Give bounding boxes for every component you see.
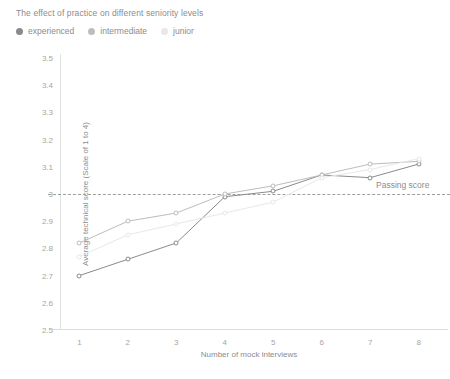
data-point-marker xyxy=(174,240,179,245)
data-point-marker xyxy=(368,162,373,167)
y-axis-tick-label: 3.5 xyxy=(42,54,53,63)
chart-title: The effect of practice on different seni… xyxy=(16,8,203,18)
data-point-marker xyxy=(271,200,276,205)
x-axis-tick-label: 6 xyxy=(319,338,323,347)
y-axis-tick-label: 2.8 xyxy=(42,244,53,253)
plot-area: Average technical score (Scale of 1 to 4… xyxy=(60,58,438,330)
data-point-marker xyxy=(125,219,130,224)
data-point-marker xyxy=(368,167,373,172)
x-axis-tick-label: 5 xyxy=(271,338,275,347)
legend-item-junior[interactable]: junior xyxy=(161,26,194,36)
x-axis-tick-label: 7 xyxy=(368,338,372,347)
legend-marker-icon xyxy=(161,28,168,35)
data-point-marker xyxy=(125,257,130,262)
legend-item-experienced[interactable]: experienced xyxy=(16,26,74,36)
legend-item-label: experienced xyxy=(28,26,74,36)
data-point-marker xyxy=(222,211,227,216)
x-axis-tick-label: 1 xyxy=(77,338,81,347)
y-axis-tick-label: 3.4 xyxy=(42,81,53,90)
y-axis-tick-label: 2.5 xyxy=(42,326,53,335)
data-point-marker xyxy=(271,183,276,188)
data-point-marker xyxy=(77,240,82,245)
data-point-marker xyxy=(125,232,130,237)
data-point-marker xyxy=(174,211,179,216)
series-line-junior xyxy=(79,159,418,257)
data-point-marker xyxy=(77,254,82,259)
data-point-marker xyxy=(271,189,276,194)
y-axis-tick-label: 2.7 xyxy=(42,271,53,280)
y-axis-tick-label: 3.1 xyxy=(42,162,53,171)
data-point-marker xyxy=(416,156,421,161)
data-point-marker xyxy=(222,192,227,197)
chart-legend: experiencedintermediatejunior xyxy=(16,26,194,36)
legend-item-intermediate[interactable]: intermediate xyxy=(88,26,147,36)
legend-marker-icon xyxy=(16,28,23,35)
x-axis-tick-label: 4 xyxy=(223,338,227,347)
data-point-marker xyxy=(319,175,324,180)
series-lines xyxy=(60,58,438,330)
x-axis-tick-label: 3 xyxy=(174,338,178,347)
y-axis-tick-label: 2.9 xyxy=(42,217,53,226)
y-axis-tick-label: 3.2 xyxy=(42,135,53,144)
legend-marker-icon xyxy=(88,28,95,35)
data-point-marker xyxy=(174,221,179,226)
legend-item-label: junior xyxy=(173,26,194,36)
y-axis-tick-label: 3.3 xyxy=(42,108,53,117)
x-axis-tick-label: 8 xyxy=(416,338,420,347)
data-point-marker xyxy=(368,175,373,180)
series-line-intermediate xyxy=(79,161,418,243)
y-axis-tick-label: 2.6 xyxy=(42,298,53,307)
legend-item-label: intermediate xyxy=(100,26,147,36)
data-point-marker xyxy=(77,273,82,278)
x-axis-tick-label: 2 xyxy=(126,338,130,347)
x-axis-title: Number of mock interviews xyxy=(60,350,438,359)
